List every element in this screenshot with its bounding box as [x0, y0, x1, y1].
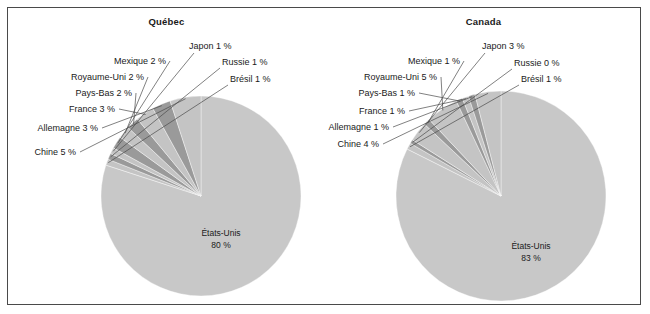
pie-center-label-name: États-Unis	[201, 228, 240, 238]
pie-label: Chine 5 %	[34, 147, 76, 157]
pie-label: Allemagne 1 %	[328, 122, 389, 132]
pie-center-label-name: États-Unis	[511, 241, 550, 251]
pie-label: Chine 4 %	[337, 139, 379, 149]
leader-line	[419, 93, 460, 101]
pie-chart-quebec: Chine 5 %Allemagne 3 %France 3 %Pays-Bas…	[8, 8, 325, 304]
pie-label: Pays-Bas 1 %	[358, 88, 415, 98]
figure-root: Québec Chine 5 %Allemagne 3 %France 3 %P…	[0, 0, 650, 314]
pie-label: Royaume-Uni 2 %	[71, 72, 144, 82]
chart-title-canada: Canada	[325, 16, 642, 27]
pie-label: Russie 0 %	[514, 58, 560, 68]
pie-center-label-value: 80 %	[211, 240, 231, 250]
pie-center-label-value: 83 %	[521, 253, 541, 263]
pie-label: Allemagne 3 %	[37, 123, 98, 133]
leader-line	[119, 109, 146, 115]
pie-label: Mexique 2 %	[114, 56, 166, 66]
pie-label: Japon 3 %	[482, 41, 525, 51]
pie-label: Mexique 1 %	[408, 56, 460, 66]
figure-frame: Québec Chine 5 %Allemagne 3 %France 3 %P…	[7, 7, 641, 305]
pie-label: Brésil 1 %	[521, 74, 562, 84]
pie-label: France 3 %	[69, 104, 115, 114]
chart-panel-canada: Canada Chine 4 %Allemagne 1 %France 1 %P…	[325, 8, 642, 304]
pie-label: France 1 %	[359, 106, 405, 116]
pie-label: Russie 1 %	[222, 57, 268, 67]
pie-label: Japon 1 %	[189, 41, 232, 51]
pie-chart-canada: Chine 4 %Allemagne 1 %France 1 %Pays-Bas…	[325, 8, 642, 304]
chart-title-quebec: Québec	[8, 16, 325, 27]
pie-label: Royaume-Uni 5 %	[364, 72, 437, 82]
pie-label: Pays-Bas 2 %	[75, 88, 132, 98]
chart-panel-quebec: Québec Chine 5 %Allemagne 3 %France 3 %P…	[8, 8, 325, 304]
pie-label: Brésil 1 %	[230, 74, 271, 84]
